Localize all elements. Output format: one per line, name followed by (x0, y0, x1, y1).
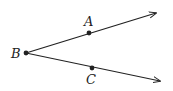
point-a (87, 31, 92, 36)
label-b: B (10, 46, 21, 61)
diagram-canvas: B A C (0, 0, 173, 91)
point-c (90, 66, 95, 71)
label-c: C (86, 72, 96, 87)
label-a: A (83, 14, 93, 29)
vertex-point-b (24, 51, 29, 56)
angle-diagram: B A C (0, 0, 173, 91)
